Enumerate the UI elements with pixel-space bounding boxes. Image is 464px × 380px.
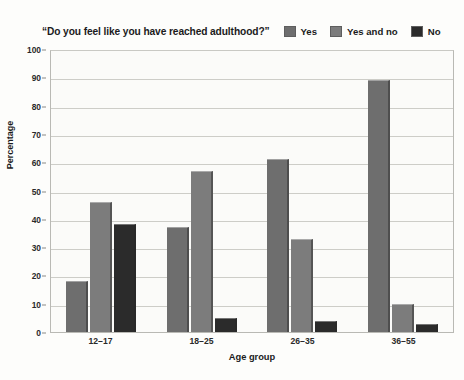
bar-group: [252, 51, 353, 332]
bar: [215, 318, 237, 332]
y-axis-tick-mark: [42, 163, 46, 164]
y-axis-tick-mark: [42, 248, 46, 249]
y-axis-tick-mark: [42, 50, 46, 51]
chart-figure: “Do you feel like you have reached adult…: [0, 0, 464, 380]
y-axis-tick-mark: [42, 134, 46, 135]
bar-group: [353, 51, 454, 332]
y-axis-tick-mark: [42, 106, 46, 107]
y-axis-tick-label: 80: [32, 102, 41, 112]
legend-item-no: No: [411, 26, 441, 37]
bars-layer: [51, 51, 453, 332]
y-axis: 1009080706050403020100: [0, 50, 46, 333]
bar: [191, 171, 213, 332]
y-axis-tick-label: 20: [32, 271, 41, 281]
bar: [315, 321, 337, 332]
plot-area: [50, 50, 454, 333]
legend-item-yes-and-no: Yes and no: [330, 26, 398, 37]
bar: [392, 304, 414, 332]
y-axis-tick-mark: [42, 191, 46, 192]
chart-title: “Do you feel like you have reached adult…: [42, 26, 270, 37]
y-axis-tick-label: 90: [32, 73, 41, 83]
bar: [368, 80, 390, 332]
legend-swatch-no: [411, 26, 423, 37]
x-axis-tick-label: 18–25: [151, 336, 252, 346]
y-axis-tick-label: 70: [32, 130, 41, 140]
x-axis-tick-label: 26–35: [252, 336, 353, 346]
x-axis-tick-label: 36–55: [353, 336, 454, 346]
bar: [66, 281, 88, 332]
y-axis-tick-mark: [42, 333, 46, 334]
x-axis-title: Age group: [50, 352, 454, 362]
legend-label-yes-and-no: Yes and no: [347, 26, 398, 37]
y-axis-tick-mark: [42, 219, 46, 220]
y-axis-tick-label: 60: [32, 158, 41, 168]
y-axis-tick-mark: [42, 304, 46, 305]
legend-label-no: No: [428, 26, 441, 37]
bar: [114, 224, 136, 332]
bar: [416, 324, 438, 332]
y-axis-tick-label: 10: [32, 300, 41, 310]
bar: [291, 239, 313, 332]
x-axis-tick-label: 12–17: [50, 336, 151, 346]
bar-group: [152, 51, 253, 332]
legend-swatch-yes-and-no: [330, 26, 342, 37]
y-axis-title: Percentage: [5, 105, 15, 185]
y-axis-tick-label: 50: [32, 187, 41, 197]
chart-legend: Yes Yes and no No: [284, 26, 454, 37]
bar-group: [51, 51, 152, 332]
y-axis-tick-mark: [42, 276, 46, 277]
y-axis-tick-label: 40: [32, 215, 41, 225]
bar: [167, 227, 189, 332]
bar: [90, 202, 112, 332]
y-axis-tick-label: 100: [27, 45, 41, 55]
legend-item-yes: Yes: [284, 26, 318, 37]
y-axis-tick-mark: [42, 78, 46, 79]
y-axis-tick-label: 0: [36, 328, 41, 338]
y-axis-tick-label: 30: [32, 243, 41, 253]
x-axis: 12–1718–2526–3536–55: [50, 336, 454, 346]
chart-header: “Do you feel like you have reached adult…: [0, 20, 464, 42]
legend-swatch-yes: [284, 26, 296, 37]
legend-label-yes: Yes: [301, 26, 318, 37]
bar: [267, 159, 289, 332]
